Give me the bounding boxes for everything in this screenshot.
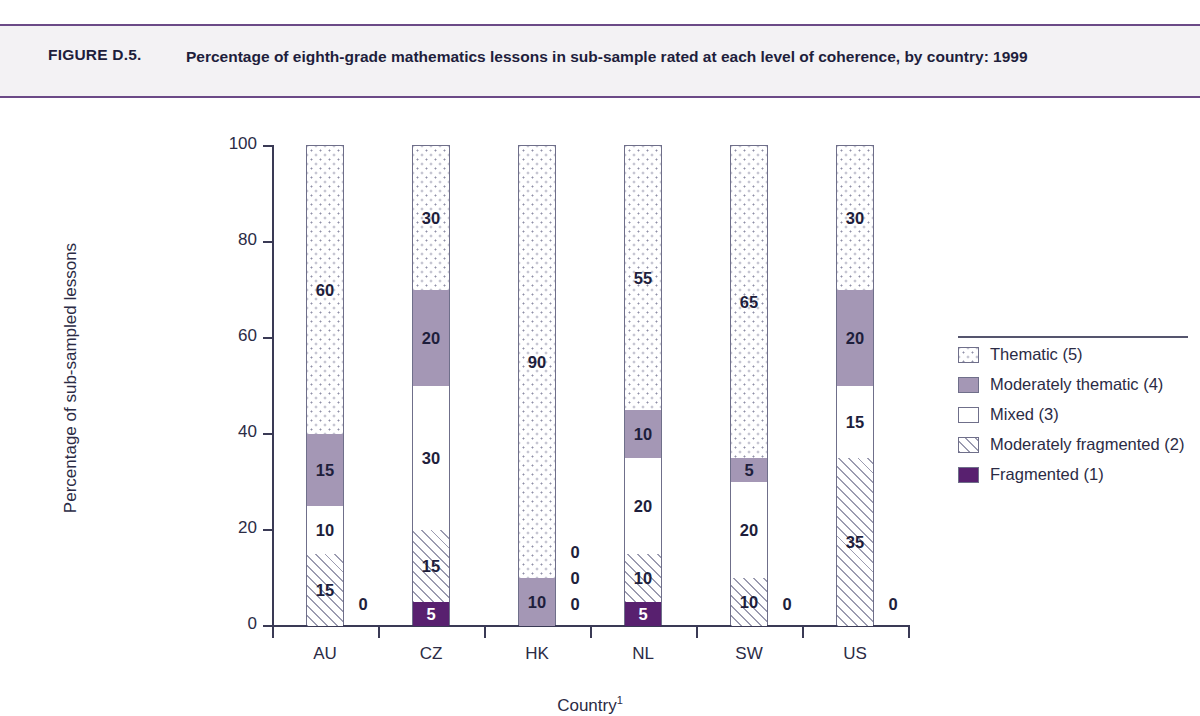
bar-group-cz: 30 20 30 15 5 (386, 98, 476, 638)
figure-title: Percentage of eighth-grade mathematics l… (186, 46, 1126, 68)
y-tick-label-0: 0 (213, 614, 257, 634)
legend: Thematic (5) Moderately thematic (4) Mix… (958, 344, 1194, 494)
bar-group-au: 60 15 10 15 0 (280, 98, 370, 638)
segment-value-fragmented-zero: 0 (564, 595, 586, 614)
y-axis-line (272, 145, 274, 626)
segment-value: 60 (316, 281, 334, 300)
segment-value: 10 (634, 425, 652, 444)
segment-mixed[interactable]: 30 (413, 386, 449, 530)
legend-label-moderately-fragmented: Moderately fragmented (2) (990, 434, 1184, 454)
segment-moderately-fragmented[interactable]: 10 (731, 578, 767, 626)
x-tick-nl-sw (696, 627, 698, 638)
x-axis-title-text: Country (557, 696, 617, 715)
bar-nl[interactable]: 55 10 20 10 5 (624, 145, 662, 625)
segment-value: 5 (426, 605, 435, 624)
y-tick-60 (263, 337, 273, 339)
segment-moderately-thematic[interactable]: 5 (731, 458, 767, 482)
y-tick-40 (263, 433, 273, 435)
segment-moderately-fragmented[interactable]: 10 (625, 554, 661, 602)
segment-value: 35 (846, 533, 864, 552)
segment-value: 20 (634, 497, 652, 516)
legend-label-moderately-thematic: Moderately thematic (4) (990, 374, 1163, 394)
bar-sw[interactable]: 65 5 20 10 (730, 145, 768, 625)
segment-thematic[interactable]: 90 (519, 146, 555, 578)
y-tick-label-100: 100 (213, 134, 257, 154)
legend-swatch-moderately-fragmented-icon (958, 437, 979, 453)
bar-group-sw: 65 5 20 10 0 (704, 98, 794, 638)
figure-number: FIGURE D.5. (48, 46, 142, 64)
segment-mixed[interactable]: 20 (625, 458, 661, 554)
bar-hk[interactable]: 90 10 (518, 145, 556, 625)
y-tick-label-80: 80 (213, 230, 257, 250)
segment-value: 20 (846, 329, 864, 348)
segment-moderately-fragmented[interactable]: 35 (837, 458, 873, 626)
legend-swatch-fragmented-icon (958, 467, 979, 483)
segment-value: 30 (846, 209, 864, 228)
figure-header: FIGURE D.5. Percentage of eighth-grade m… (0, 24, 1200, 98)
bar-group-nl: 55 10 20 10 5 (598, 98, 688, 638)
x-tick-label-nl: NL (598, 644, 688, 664)
bar-us[interactable]: 30 20 15 35 (836, 145, 874, 625)
legend-label-fragmented: Fragmented (1) (990, 464, 1104, 484)
segment-value: 15 (316, 461, 334, 480)
legend-swatch-mixed-icon (958, 407, 979, 423)
legend-label-mixed: Mixed (3) (990, 404, 1059, 424)
legend-item-fragmented[interactable]: Fragmented (1) (958, 464, 1194, 484)
segment-thematic[interactable]: 60 (307, 146, 343, 434)
segment-mixed[interactable]: 15 (837, 386, 873, 458)
segment-fragmented[interactable]: 5 (413, 602, 449, 626)
segment-fragmented[interactable]: 5 (625, 602, 661, 626)
x-tick-sw-us (802, 627, 804, 638)
segment-mixed[interactable]: 10 (307, 506, 343, 554)
segment-moderately-thematic[interactable]: 15 (307, 434, 343, 506)
segment-moderately-thematic[interactable]: 10 (519, 578, 555, 626)
segment-thematic[interactable]: 30 (837, 146, 873, 290)
bar-group-us: 30 20 15 35 0 (810, 98, 900, 638)
segment-thematic[interactable]: 65 (731, 146, 767, 458)
legend-item-moderately-thematic[interactable]: Moderately thematic (4) (958, 374, 1194, 394)
y-tick-label-40: 40 (213, 422, 257, 442)
segment-value: 10 (740, 593, 758, 612)
segment-moderately-thematic[interactable]: 20 (413, 290, 449, 386)
legend-divider (958, 336, 1188, 338)
bar-au[interactable]: 60 15 10 15 (306, 145, 344, 625)
segment-mixed[interactable]: 20 (731, 482, 767, 578)
segment-value-fragmented-zero: 0 (776, 595, 798, 614)
segment-value-fragmented-zero: 0 (352, 595, 374, 614)
x-tick-cz-hk (484, 627, 486, 638)
y-tick-80 (263, 241, 273, 243)
x-tick-label-hk: HK (492, 644, 582, 664)
x-tick-label-au: AU (280, 644, 370, 664)
x-tick-label-sw: SW (704, 644, 794, 664)
segment-thematic[interactable]: 55 (625, 146, 661, 410)
x-axis-title: Country1 (420, 694, 760, 716)
x-tick-end (908, 627, 910, 638)
chart-area: Percentage of sub-sampled lessons 100 80… (0, 98, 1200, 716)
segment-value: 30 (422, 449, 440, 468)
segment-moderately-thematic[interactable]: 10 (625, 410, 661, 458)
segment-value: 15 (316, 581, 334, 600)
segment-value-mixed-zero: 0 (564, 543, 586, 562)
segment-value-moderately-fragmented-zero: 0 (564, 569, 586, 588)
y-tick-20 (263, 529, 273, 531)
segment-value: 15 (422, 557, 440, 576)
segment-moderately-fragmented[interactable]: 15 (413, 530, 449, 602)
legend-swatch-thematic-icon (958, 347, 979, 363)
segment-value: 10 (528, 593, 546, 612)
y-tick-label-60: 60 (213, 326, 257, 346)
legend-item-moderately-fragmented[interactable]: Moderately fragmented (2) (958, 434, 1194, 454)
segment-moderately-fragmented[interactable]: 15 (307, 554, 343, 626)
legend-swatch-moderately-thematic-icon (958, 377, 979, 393)
bar-cz[interactable]: 30 20 30 15 5 (412, 145, 450, 625)
x-tick-hk-nl (590, 627, 592, 638)
segment-value: 5 (744, 461, 753, 480)
segment-thematic[interactable]: 30 (413, 146, 449, 290)
legend-item-mixed[interactable]: Mixed (3) (958, 404, 1194, 424)
x-tick-au-cz (378, 627, 380, 638)
legend-item-thematic[interactable]: Thematic (5) (958, 344, 1194, 364)
segment-value-fragmented-zero: 0 (882, 595, 904, 614)
legend-label-thematic: Thematic (5) (990, 344, 1083, 364)
segment-moderately-thematic[interactable]: 20 (837, 290, 873, 386)
segment-value: 20 (740, 521, 758, 540)
y-tick-100 (263, 145, 273, 147)
